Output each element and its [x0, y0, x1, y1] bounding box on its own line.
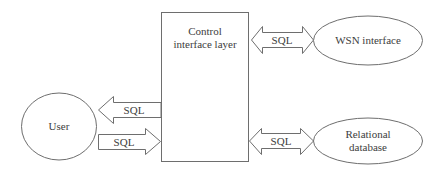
database-label-line1: Relational	[345, 128, 390, 140]
control-to-user-arrow-label: SQL	[124, 104, 145, 116]
control-wsn-arrow-label: SQL	[272, 34, 293, 46]
user-to-control-arrow: SQL	[99, 129, 161, 155]
control-label-line2: interface layer	[173, 38, 237, 50]
control-database-arrow-label: SQL	[271, 135, 292, 147]
user-to-control-arrow-label: SQL	[114, 136, 135, 148]
relational-database-node: Relational database	[314, 118, 423, 164]
user-label: User	[49, 120, 70, 132]
wsn-interface-label: WSN interface	[335, 34, 401, 46]
control-label-line1: Control	[188, 25, 222, 37]
user-node: User	[22, 93, 97, 160]
control-to-user-arrow: SQL	[99, 97, 162, 124]
wsn-interface-node: WSN interface	[314, 16, 423, 65]
control-interface-layer-node: Control interface layer	[162, 13, 249, 162]
architecture-diagram: Control interface layer SQL WSN interfac…	[0, 0, 445, 176]
database-label-line2: database	[349, 141, 387, 153]
control-wsn-arrow: SQL	[252, 27, 314, 54]
control-database-arrow: SQL	[250, 129, 314, 155]
